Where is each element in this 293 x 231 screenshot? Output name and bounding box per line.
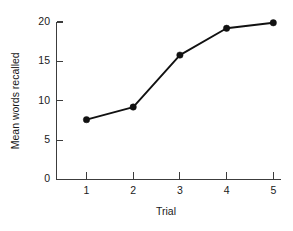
y-tick-label-20: 20: [38, 15, 50, 27]
x-tick-label-1: 1: [84, 184, 90, 196]
x-tick-label-4: 4: [224, 184, 230, 196]
y-tick-label-10: 10: [38, 94, 50, 106]
y-tick-label-5: 5: [44, 133, 50, 145]
y-tick-label-15: 15: [38, 54, 50, 66]
x-axis-title: Trial: [156, 205, 176, 217]
chart-canvas: 20 15 10 5 0 1 2 3 4 5 Trial Mean words …: [0, 0, 293, 231]
data-point-trial-4: [223, 25, 229, 31]
data-point-trial-5: [270, 20, 276, 26]
data-point-trial-1: [83, 116, 89, 122]
x-tick-label-5: 5: [270, 184, 276, 196]
x-tick-label-2: 2: [130, 184, 136, 196]
data-point-trial-2: [130, 104, 136, 110]
y-axis-title: Mean words recalled: [9, 52, 21, 149]
line-chart-figure: 20 15 10 5 0 1 2 3 4 5 Trial Mean words …: [0, 0, 293, 231]
data-point-trial-3: [177, 52, 183, 58]
x-tick-label-3: 3: [177, 184, 183, 196]
y-tick-label-0: 0: [44, 172, 50, 184]
chart-background: [0, 0, 293, 231]
